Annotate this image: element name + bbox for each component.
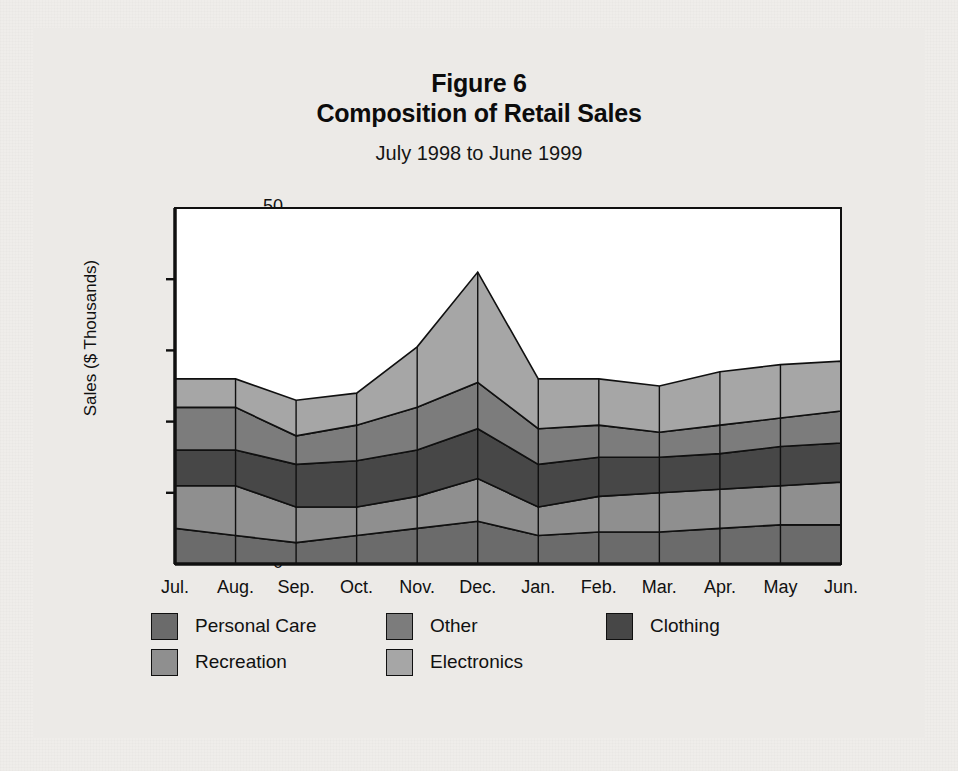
- legend-item-other[interactable]: Other: [386, 613, 606, 640]
- legend-swatch-clothing: [606, 613, 633, 640]
- legend-item-recreation[interactable]: Recreation: [151, 649, 386, 676]
- legend-item-clothing[interactable]: Clothing: [606, 613, 806, 640]
- legend-label: Clothing: [650, 615, 720, 637]
- legend-row: Personal CareOtherClothing: [151, 608, 811, 644]
- legend-item-electronics[interactable]: Electronics: [386, 649, 606, 676]
- legend-swatch-electronics: [386, 649, 413, 676]
- legend-label: Personal Care: [195, 615, 316, 637]
- legend-item-personal-care[interactable]: Personal Care: [151, 613, 386, 640]
- chart-legend: Personal CareOtherClothingRecreationElec…: [151, 608, 811, 680]
- legend-swatch-recreation: [151, 649, 178, 676]
- figure-card: Figure 6 Composition of Retail Sales Jul…: [33, 28, 925, 738]
- legend-label: Other: [430, 615, 478, 637]
- legend-swatch-personal-care: [151, 613, 178, 640]
- figure-container: Figure 6 Composition of Retail Sales Jul…: [33, 28, 925, 738]
- legend-label: Recreation: [195, 651, 287, 673]
- legend-swatch-other: [386, 613, 413, 640]
- legend-row: RecreationElectronics: [151, 644, 811, 680]
- legend-label: Electronics: [430, 651, 523, 673]
